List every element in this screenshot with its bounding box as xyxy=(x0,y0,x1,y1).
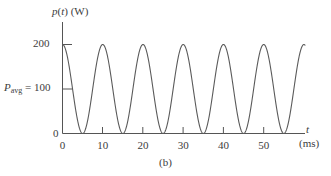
y-tick-marks xyxy=(63,45,73,90)
x-tick-label-10: 10 xyxy=(97,140,108,151)
power-waveform-curve xyxy=(63,45,306,134)
y-tick-label-200: 200 xyxy=(33,38,50,49)
x-tick-label-0: 0 xyxy=(60,140,66,151)
power-waveform-figure: p(t) (W) 200 Pavg = 100 0 01020304050 t … xyxy=(0,0,331,176)
pavg-value: 100 xyxy=(34,81,51,93)
y-axis-unit: (W) xyxy=(71,5,89,17)
average-power-label: Pavg = 100 xyxy=(4,82,51,95)
x-tick-label-20: 20 xyxy=(137,140,148,151)
y-tick-label-0: 0 xyxy=(53,128,59,139)
x-axis-title: t xyxy=(306,124,309,135)
figure-caption: (b) xyxy=(0,157,331,168)
y-axis-title: p(t) (W) xyxy=(52,6,88,17)
x-tick-label-50: 50 xyxy=(258,140,269,151)
pavg-equals: = xyxy=(25,81,31,93)
pavg-symbol: P xyxy=(4,81,11,93)
x-tick-label-40: 40 xyxy=(218,140,229,151)
x-tick-label-30: 30 xyxy=(178,140,189,151)
pavg-subscript: avg xyxy=(11,86,23,95)
y-axis-title-paren-close: ) xyxy=(64,5,68,17)
x-axis-unit-label: (ms) xyxy=(299,138,319,149)
x-tick-marks xyxy=(103,127,264,134)
